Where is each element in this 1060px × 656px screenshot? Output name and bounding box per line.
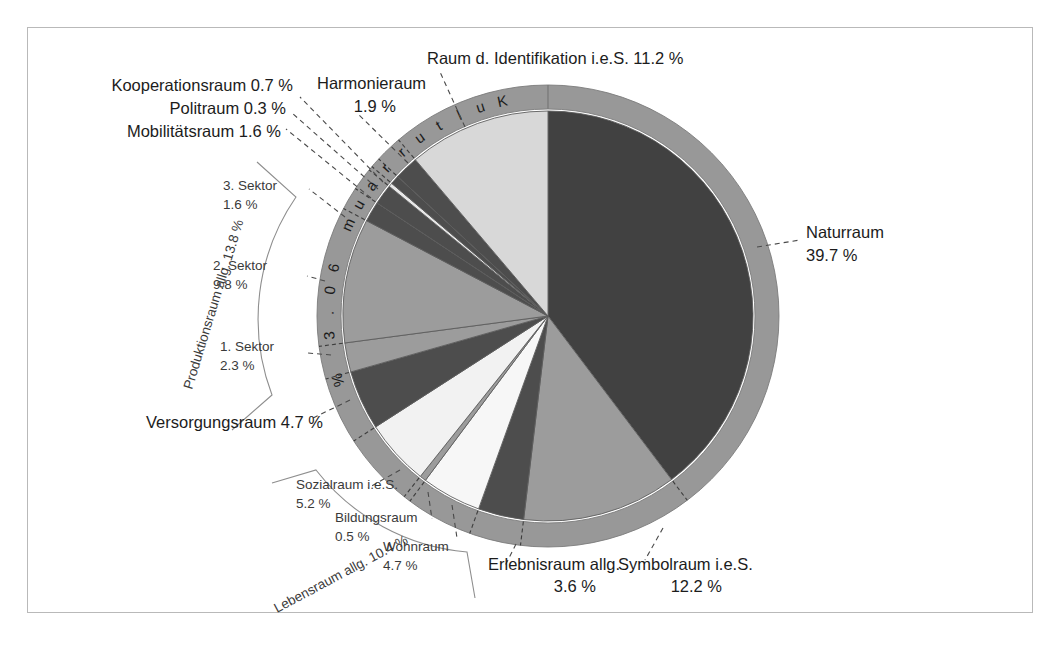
label-harmonieraum-name: Harmonieraum xyxy=(317,74,426,92)
figure-caption-fragment xyxy=(30,637,33,651)
label-bildungsraum-name: Bildungsraum xyxy=(335,510,418,525)
label-sektor3-value: 1.6 % xyxy=(223,197,258,212)
label-bildungsraum-value: 0.5 % xyxy=(335,529,370,544)
label-wohnraum-value: 4.7 % xyxy=(383,558,418,573)
label-symbolraum-name: Symbolraum i.e.S. xyxy=(618,555,753,573)
pie-slices xyxy=(343,111,753,521)
label-naturraum-name: Naturraum xyxy=(806,223,884,241)
figure-page: %3.06muarrutluK Naturraum xyxy=(0,0,1060,656)
label-kooperationsraum: Kooperationsraum 0.7 % xyxy=(111,76,293,94)
label-sozialraum-value: 5.2 % xyxy=(296,496,331,511)
label-versorgungsraum: Versorgungsraum 4.7 % xyxy=(146,413,323,431)
bracket-label-lebensraum: Lebensraum allg. 10.4 % xyxy=(271,532,410,615)
label-symbolraum-value: 12.2 % xyxy=(671,577,723,595)
pie-chart-figure: %3.06muarrutluK Naturraum xyxy=(0,0,1060,656)
label-sozialraum-name: Sozialraum i.e.S. xyxy=(296,477,398,492)
label-harmonieraum-value: 1.9 % xyxy=(354,97,397,115)
label-sektor1-value: 2.3 % xyxy=(220,358,255,373)
label-mobilitaetsraum: Mobilitätsraum 1.6 % xyxy=(127,122,281,140)
label-sektor1-name: 1. Sektor xyxy=(220,339,275,354)
label-naturraum-value: 39.7 % xyxy=(806,246,858,264)
leader-sektor3 xyxy=(309,189,345,217)
label-politraum: Politraum 0.3 % xyxy=(170,99,287,117)
ring-label-char: 3 xyxy=(320,331,338,341)
label-sektor3-name: 3. Sektor xyxy=(223,178,278,193)
ring-label-char: . xyxy=(319,311,336,315)
label-erlebnisraum-name: Erlebnisraum allg. xyxy=(488,555,620,573)
label-identifikation: Raum d. Identifikation i.e.S. 11.2 % xyxy=(427,49,684,67)
label-erlebnisraum-value: 3.6 % xyxy=(554,577,597,595)
